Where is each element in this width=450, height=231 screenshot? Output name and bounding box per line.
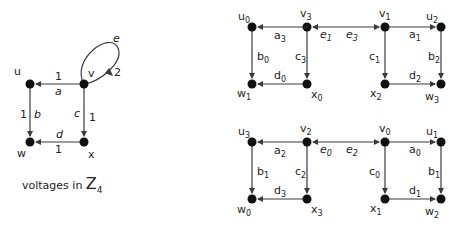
label-w2: w2: [425, 205, 439, 220]
derived-bottom-labels: u3 v2 v0 u1 w0 x3 x1 w2 a2 b1 c2 d3 e0 e…: [237, 122, 440, 220]
edge-label-e: e: [113, 32, 120, 45]
label-w0: w0: [237, 203, 251, 218]
node-u: [26, 80, 35, 89]
edge-label-d3: d3: [274, 184, 286, 199]
edge-label-c0: c0: [369, 165, 380, 180]
group-symbol: Z: [86, 174, 97, 193]
label-w3: w3: [425, 90, 439, 105]
node-v0: [381, 138, 390, 147]
voltage-c: 1: [89, 111, 96, 124]
node-x2: [381, 80, 390, 89]
loop-arrowhead: [106, 69, 112, 75]
label-x1: x1: [370, 202, 382, 217]
edge-label-b0: b0: [257, 50, 269, 65]
label-u2: u2: [426, 10, 438, 25]
node-x1: [381, 195, 390, 204]
edge-label-e2: e2: [346, 143, 358, 158]
edge-label-c: c: [74, 107, 80, 120]
base-graph: [30, 43, 119, 142]
label-x2: x2: [370, 87, 382, 102]
node-w2: [437, 195, 446, 204]
label-v0: v0: [379, 122, 391, 137]
node-v2: [303, 138, 312, 147]
edge-label-e0: e0: [320, 143, 332, 158]
node-w1: [248, 80, 257, 89]
label-u1: u1: [426, 125, 438, 140]
node-x: [80, 138, 89, 147]
voltage-e: 2: [114, 66, 121, 79]
edge-label-d2: d2: [409, 69, 421, 84]
voltage-b: 1: [20, 108, 27, 121]
edge-label-b2: b2: [428, 50, 440, 65]
edge-label-e3: e3: [346, 28, 358, 43]
derived-top-labels: u0 v3 v1 u2 w1 x0 x2 w3 a3 b0 c3 d0 e1 e…: [237, 7, 440, 105]
voltage-d: 1: [55, 143, 62, 156]
label-w: w: [17, 147, 26, 160]
label-u: u: [14, 65, 21, 78]
label-x3: x3: [311, 203, 323, 218]
edge-label-a: a: [55, 85, 62, 98]
label-v: v: [88, 67, 95, 80]
node-v: [80, 80, 89, 89]
label-u0: u0: [238, 10, 250, 25]
edge-label-d1: d1: [409, 184, 421, 199]
edge-label-c1: c1: [369, 50, 380, 65]
node-w3: [437, 80, 446, 89]
edge-label-a3: a3: [274, 29, 286, 44]
label-v2: v2: [300, 122, 312, 137]
edge-label-a0: a0: [409, 143, 421, 158]
edge-label-a1: a1: [409, 28, 421, 43]
edge-label-e1: e1: [320, 28, 332, 43]
node-w: [26, 138, 35, 147]
group-order: 4: [97, 185, 103, 195]
edge-label-d: d: [56, 128, 64, 141]
edge-label-a2: a2: [274, 144, 286, 159]
edge-label-b: b: [34, 108, 41, 121]
label-u3: u3: [238, 125, 250, 140]
edge-label-b1-right: b1: [428, 165, 440, 180]
label-w1: w1: [237, 87, 251, 102]
label-x0: x0: [311, 88, 323, 103]
caption-text: voltages in: [22, 179, 86, 192]
node-v1: [381, 23, 390, 32]
edge-label-c2: c2: [295, 165, 306, 180]
edge-label-d0: d0: [274, 69, 286, 84]
label-v1: v1: [379, 7, 391, 22]
node-w0: [248, 195, 257, 204]
label-x: x: [88, 148, 95, 161]
voltage-a: 1: [55, 70, 62, 83]
edge-label-b1-left: b1: [257, 165, 269, 180]
edge-label-c3: c3: [295, 50, 306, 65]
voltage-group-caption: voltages in Z4: [22, 174, 103, 193]
node-v3: [303, 23, 312, 32]
label-v3: v3: [300, 7, 312, 22]
voltage-graph-diagram: u v w x a 1 b 1 c 1 d 1 e 2 u0: [0, 0, 450, 231]
